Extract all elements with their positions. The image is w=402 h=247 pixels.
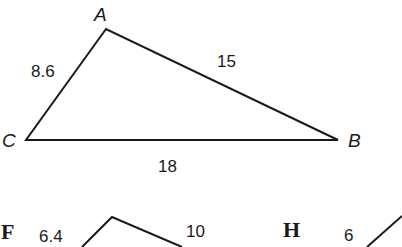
side-cb-length: 18 [158, 157, 177, 176]
option-f-side-right: 10 [186, 222, 205, 241]
side-ab-length: 15 [217, 52, 236, 71]
option-h-side-left: 6 [344, 226, 353, 245]
option-h-letter: H [283, 217, 300, 242]
option-f-letter: F [1, 219, 14, 244]
side-ca-length: 8.6 [31, 62, 55, 81]
option-f-triangle [82, 217, 182, 247]
triangle-abc [26, 29, 338, 140]
vertex-a-label: A [93, 4, 107, 25]
option-f-side-left: 6.4 [39, 227, 63, 246]
vertex-c-label: C [2, 130, 16, 151]
option-h-triangle [367, 216, 402, 247]
geometry-figure: A C B 8.6 15 18 F 6.4 10 H 6 [0, 0, 402, 247]
vertex-b-label: B [348, 130, 361, 151]
